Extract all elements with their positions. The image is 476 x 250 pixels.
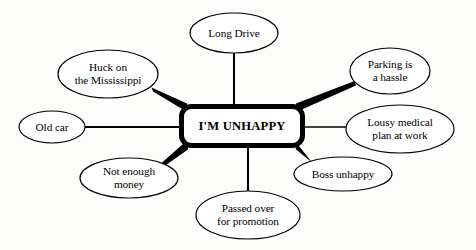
branch-node-not-enough-money[interactable] bbox=[80, 158, 178, 198]
mind-map-canvas: I'M UNHAPPY Long Drive Huck on the Missi… bbox=[0, 0, 476, 250]
branch-node-old-car[interactable] bbox=[19, 111, 85, 143]
branch-node-lousy-medical-plan[interactable] bbox=[346, 105, 454, 153]
branch-node-boss-unhappy[interactable] bbox=[294, 157, 392, 191]
branch-node-parking-hassle[interactable] bbox=[350, 48, 430, 94]
branch-node-long-drive[interactable] bbox=[190, 13, 278, 53]
branch-node-huck-mississippi[interactable] bbox=[58, 50, 158, 98]
center-node-shape[interactable] bbox=[182, 107, 303, 146]
branch-node-passed-over[interactable] bbox=[196, 191, 300, 239]
connector-parking-hassle bbox=[295, 81, 356, 113]
mind-map-graphic bbox=[0, 0, 476, 250]
